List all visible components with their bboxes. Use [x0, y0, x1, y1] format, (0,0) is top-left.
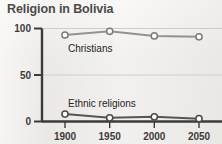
- data-point: [62, 111, 68, 117]
- series-label-christians: Christians: [68, 43, 112, 54]
- y-tick-label-50: 50: [20, 70, 32, 81]
- chart-figure: Religion in Bolivia 100 50 0 1900: [0, 0, 222, 144]
- series-label-ethnic-religions: Ethnic religions: [68, 98, 136, 109]
- data-point: [107, 28, 113, 34]
- data-point: [107, 115, 113, 121]
- x-tick-label-2050: 2050: [188, 131, 211, 142]
- data-point: [196, 34, 202, 40]
- y-tick-label-100: 100: [14, 23, 31, 34]
- series-christians-line: [65, 31, 199, 37]
- data-point: [151, 114, 157, 120]
- data-point: [151, 33, 157, 39]
- series-christians: [62, 28, 202, 40]
- chart-plot-area: 100 50 0 1900 1950 2000 2050 Christians …: [0, 0, 222, 144]
- data-point: [196, 116, 202, 122]
- x-tick-label-1900: 1900: [54, 131, 77, 142]
- data-point: [62, 32, 68, 38]
- y-tick-label-0: 0: [25, 116, 31, 127]
- series-ethnic-religions-line: [65, 114, 199, 119]
- series-ethnic-religions: [62, 111, 202, 122]
- x-tick-label-2000: 2000: [143, 131, 166, 142]
- x-tick-label-1950: 1950: [99, 131, 122, 142]
